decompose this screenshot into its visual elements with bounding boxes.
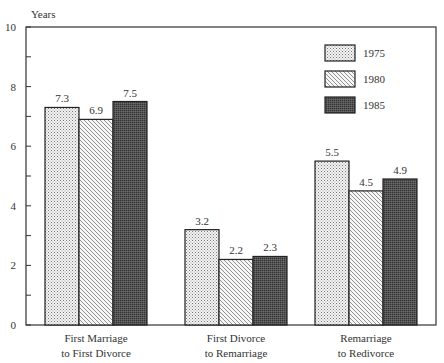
legend-label: 1980 xyxy=(363,73,386,85)
y-tick-label: 0 xyxy=(11,319,17,331)
bar-value-label: 5.5 xyxy=(325,146,339,158)
category-label: Remarriage xyxy=(340,332,391,344)
bar-value-label: 4.5 xyxy=(359,176,373,188)
legend-swatch-1980 xyxy=(325,71,355,87)
y-tick-label: 8 xyxy=(11,81,17,93)
category-label: to First Divorce xyxy=(61,347,131,359)
legend: 197519801985 xyxy=(325,45,386,113)
legend-label: 1985 xyxy=(363,99,386,111)
legend-swatch-1985 xyxy=(325,97,355,113)
bar-1975 xyxy=(315,161,349,325)
legend-swatch-1975 xyxy=(325,45,355,61)
bar-1975 xyxy=(45,107,79,325)
bar-value-label: 4.9 xyxy=(393,164,407,176)
y-tick-label: 10 xyxy=(5,21,17,33)
y-tick-label: 6 xyxy=(11,140,17,152)
bar-1985 xyxy=(113,102,147,326)
category-label: to Redivorce xyxy=(338,347,395,359)
bar-value-label: 2.2 xyxy=(229,244,243,256)
legend-label: 1975 xyxy=(363,47,386,59)
bar-1980 xyxy=(349,191,383,325)
bar-1980 xyxy=(219,259,253,325)
category-label: to Remarriage xyxy=(205,347,268,359)
bar-value-label: 3.2 xyxy=(195,215,209,227)
bar-value-label: 6.9 xyxy=(89,104,103,116)
y-tick-label: 2 xyxy=(11,259,17,271)
bar-value-label: 7.5 xyxy=(123,87,137,99)
bar-value-label: 2.3 xyxy=(263,241,277,253)
category-label: First Divorce xyxy=(207,332,265,344)
bar-1975 xyxy=(185,230,219,325)
bar-chart: Years 02468107.36.97.5First Marriageto F… xyxy=(0,0,444,363)
plot-area: 02468107.36.97.5First Marriageto First D… xyxy=(5,21,436,359)
y-tick-label: 4 xyxy=(11,200,17,212)
bar-1985 xyxy=(383,179,417,325)
bar-1980 xyxy=(79,119,113,325)
category-label: First Marriage xyxy=(64,332,127,344)
bar-value-label: 7.3 xyxy=(55,92,69,104)
bar-1985 xyxy=(253,256,287,325)
y-axis-title: Years xyxy=(31,8,56,20)
